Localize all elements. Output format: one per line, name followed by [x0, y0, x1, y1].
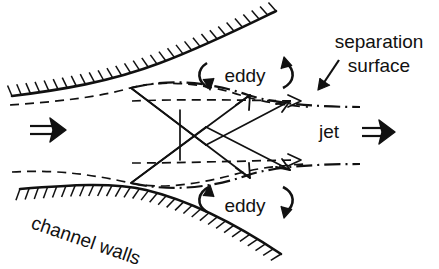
diagram-root: eddy eddy jet separation — [0, 0, 439, 269]
channel-jet-diagram: eddy eddy jet separation — [0, 0, 439, 269]
eddy-top-label: eddy — [224, 65, 266, 86]
eddy-bottom-label: eddy — [224, 195, 266, 216]
separation-label-line2: surface — [348, 55, 410, 76]
separation-label-line1: separation — [335, 31, 424, 52]
jet-label: jet — [318, 121, 340, 142]
